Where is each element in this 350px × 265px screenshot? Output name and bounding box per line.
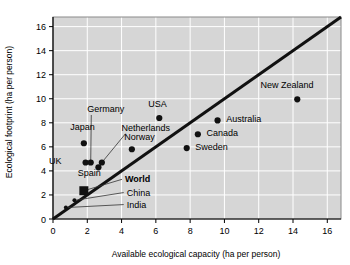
marker-world [79, 186, 88, 195]
x-tick-label: 6 [153, 226, 158, 236]
point-label-china: China [127, 188, 151, 198]
y-tick-label: 14 [36, 46, 46, 56]
y-tick-label: 16 [36, 22, 46, 32]
point-label-india: India [127, 200, 147, 210]
x-tick-label: 8 [188, 226, 193, 236]
x-axis-label: Available ecological capacity (ha per pe… [112, 249, 281, 259]
x-tick-label: 0 [50, 226, 55, 236]
marker-india [64, 206, 68, 210]
marker-australia [214, 117, 220, 123]
y-tick-label: 8 [41, 118, 46, 128]
y-tick-label: 0 [41, 215, 46, 225]
marker-japan [81, 140, 87, 146]
x-tick-label: 14 [288, 226, 298, 236]
y-tick-label: 4 [41, 166, 46, 176]
marker-usa [156, 115, 162, 121]
x-tick-label: 16 [322, 226, 332, 236]
marker-sweden [184, 145, 190, 151]
marker-china [72, 198, 76, 202]
point-label-usa: USA [148, 99, 167, 109]
x-tick-label: 2 [85, 226, 90, 236]
y-axis-label: Ecological footprint (ha per person) [4, 46, 14, 178]
y-tick-label: 6 [41, 142, 46, 152]
point-label-germany: Germany [87, 104, 125, 114]
point-label-sweden: Sweden [195, 142, 228, 152]
point-label-new-zealand: New Zealand [260, 80, 313, 90]
point-label-canada: Canada [206, 128, 238, 138]
y-tick-label: 10 [36, 94, 46, 104]
point-label-uk: UK [49, 156, 62, 166]
y-tick-label: 12 [36, 70, 46, 80]
y-tick-label: 2 [41, 190, 46, 200]
marker-canada [195, 131, 201, 137]
x-tick-label: 10 [219, 226, 229, 236]
point-label-australia: Australia [226, 114, 261, 124]
scatter-chart: 02468101214160246810121416 JapanUKGerman… [0, 0, 350, 265]
x-tick-label: 4 [119, 226, 124, 236]
point-label-japan: Japan [70, 122, 95, 132]
marker-germany [88, 159, 94, 165]
marker-netherlands [99, 159, 105, 165]
x-tick-label: 12 [254, 226, 264, 236]
point-label-world: World [125, 174, 150, 184]
point-label-norway: Norway [124, 132, 155, 142]
chart-canvas: 02468101214160246810121416 JapanUKGerman… [0, 0, 350, 265]
marker-new-zealand [294, 96, 300, 102]
marker-norway [129, 146, 135, 152]
point-label-spain: Spain [78, 168, 101, 178]
